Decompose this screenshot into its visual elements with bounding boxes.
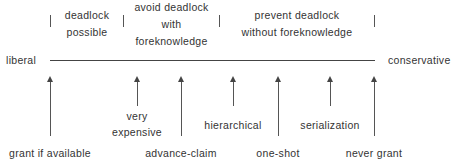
arrow-up-icon [374,81,375,136]
strategy-label-line: expensive [112,124,162,140]
arrow-up-icon [137,81,138,106]
arrow-up-icon [233,81,234,106]
strategy-one-shot: one-shot [256,145,299,161]
region-deadlock-possible: deadlock possible [52,7,122,41]
region-label-line: with [124,16,219,33]
strategy-label-line: very [112,108,162,124]
axis-label-liberal: liberal [6,54,36,66]
arrow-up-icon [278,81,279,136]
axis-line [50,60,375,61]
region-label-line: prevent deadlock [220,7,374,24]
strategy-very-expensive: very expensive [112,108,162,140]
region-avoid-deadlock: avoid deadlock with foreknowledge [124,0,219,50]
region-prevent-deadlock: prevent deadlock without foreknowledge [220,7,374,41]
axis-label-conservative: conservative [388,54,451,66]
arrow-up-icon [181,81,182,136]
region-label-line: possible [52,24,122,41]
strategy-never-grant: never grant [346,145,402,161]
strategy-advance-claim: advance-claim [145,145,217,161]
strategy-serialization: serialization [300,117,359,133]
region-label-line: foreknowledge [124,33,219,50]
region-label-line: without foreknowledge [220,24,374,41]
arrow-up-icon [330,81,331,106]
arrow-up-icon [50,81,51,136]
strategy-grant-if-available: grant if available [9,145,91,161]
region-divider-1 [50,15,51,27]
region-label-line: avoid deadlock [124,0,219,16]
region-label-line: deadlock [52,7,122,24]
region-divider-4 [374,15,375,27]
strategy-hierarchical: hierarchical [204,117,261,133]
